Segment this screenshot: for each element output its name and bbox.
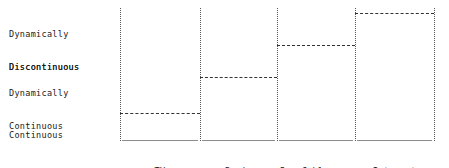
y-tick-label-line1: Dynamically	[9, 88, 69, 99]
step-segment-internet	[355, 13, 434, 14]
x-tick-label-line1: TV	[120, 166, 200, 168]
step-segment-tv	[120, 113, 200, 114]
x-tick-label-internet: Internet	[355, 144, 434, 168]
step-segment-pay-cable-vcr	[277, 45, 355, 46]
gridline-1	[200, 8, 201, 141]
step-chart-figure: Dynamically Discontinuous Discontinuous …	[0, 0, 449, 168]
baseline-segment-tv	[122, 140, 198, 141]
gridline-3	[355, 8, 356, 141]
y-tick-label-line1: Continuous	[9, 130, 63, 141]
x-tick-label-basic-cable: Basic Cable	[200, 144, 277, 168]
gridline-0	[120, 8, 121, 141]
baseline-segment-basic-cable	[202, 140, 275, 141]
baseline-segment-internet	[357, 140, 432, 141]
x-tick-label-line1: Pay Cable,	[280, 166, 355, 168]
x-tick-label-pay-cable-vcr: Pay Cable, VCR	[277, 144, 355, 168]
x-tick-label-line1: Basic	[200, 166, 277, 168]
baseline-segment-pay-cable-vcr	[279, 140, 353, 141]
y-tick-label-line1: Dynamically	[9, 29, 79, 40]
x-tick-label-tv: TV	[120, 144, 200, 168]
gridline-4	[434, 8, 435, 141]
step-segment-basic-cable	[200, 77, 277, 78]
y-tick-label-continuous: Continuous	[9, 108, 63, 163]
gridline-2	[277, 8, 278, 141]
x-tick-label-line1: Internet	[355, 166, 434, 168]
